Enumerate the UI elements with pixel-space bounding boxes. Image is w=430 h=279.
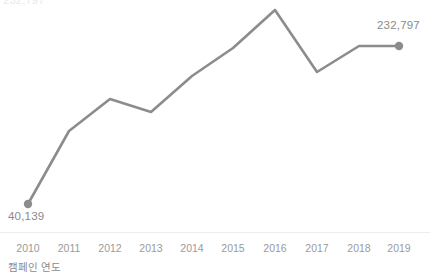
x-tick-label-2014: 2014 [180, 242, 203, 254]
x-tick-label-2017: 2017 [305, 242, 328, 254]
x-tick-label-2013: 2013 [139, 242, 162, 254]
x-axis-title: 캠페인 연도 [8, 259, 61, 274]
value-label-last: 232,797 [377, 19, 420, 31]
x-tick-label-2018: 2018 [347, 242, 370, 254]
line-chart: 232,797 40,139 232,797 20102011201220132… [0, 0, 430, 279]
x-tick-label-2012: 2012 [98, 242, 121, 254]
x-tick-label-2016: 2016 [263, 242, 286, 254]
x-tick-label-2015: 2015 [221, 242, 244, 254]
plot-area [0, 0, 430, 279]
data-line-series [28, 10, 399, 204]
value-label-first: 40,139 [8, 210, 44, 222]
x-tick-label-2010: 2010 [16, 242, 39, 254]
x-tick-label-2019: 2019 [387, 242, 410, 254]
data-point-marker-2010 [24, 200, 32, 208]
data-point-marker-2019 [395, 42, 403, 50]
x-tick-label-2011: 2011 [58, 242, 81, 254]
